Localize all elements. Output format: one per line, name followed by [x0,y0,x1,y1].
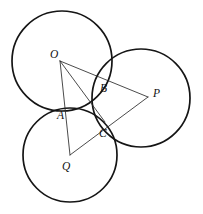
label-B: B [100,82,107,94]
label-A: A [56,109,65,121]
label-Q: Q [62,160,71,172]
circle-P [92,49,190,147]
label-O: O [50,48,59,60]
circle-O [12,11,112,111]
circles-group [12,11,190,202]
figure-canvas: O P Q A B C [0,0,203,214]
label-C: C [99,127,107,139]
geometry-figure: O P Q A B C [0,0,203,214]
label-P: P [152,87,160,99]
